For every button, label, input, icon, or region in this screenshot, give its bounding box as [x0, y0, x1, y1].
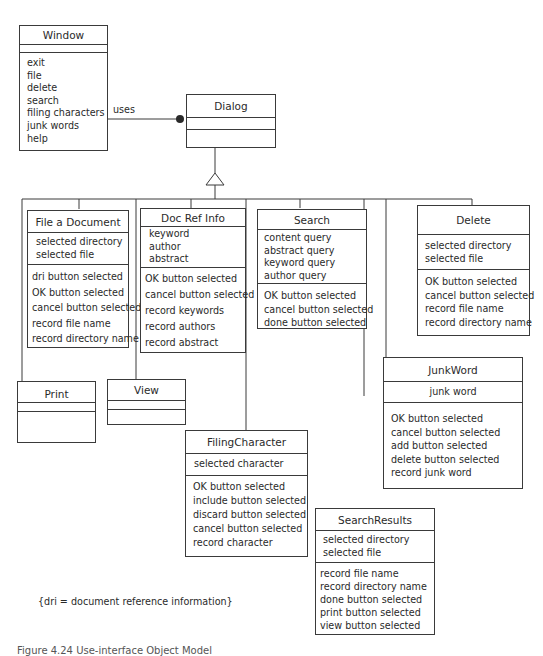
class-view: View	[107, 379, 186, 425]
attribute: keyword query	[264, 257, 366, 270]
attribute: selected file	[36, 249, 128, 262]
operation: record directory name	[425, 316, 529, 330]
class-attributes: junk word	[384, 382, 522, 403]
operation: record file name	[425, 302, 529, 316]
operation: OK button selected	[425, 275, 529, 289]
class-attributes: content query abstract query keyword que…	[258, 230, 366, 284]
operation: cancel button selected	[145, 287, 245, 303]
class-name: Delete	[418, 206, 529, 235]
class-window: Window exit file delete search filing ch…	[19, 25, 108, 151]
operation: OK button selected	[145, 271, 245, 287]
class-search-results: SearchResults selected directory selecte…	[315, 508, 435, 635]
class-name: Search	[258, 210, 366, 230]
attribute: author	[149, 241, 245, 254]
class-operations: record file name record directory name d…	[316, 563, 434, 632]
class-doc-ref-info: Doc Ref Info keyword author abstract OK …	[140, 208, 246, 353]
operation: exit	[27, 57, 107, 70]
operation: OK button selected	[264, 289, 366, 303]
operation: cancel button selected	[391, 426, 522, 440]
class-attributes	[187, 118, 275, 130]
class-file-a-document: File a Document selected directory selec…	[27, 210, 129, 348]
class-attributes	[108, 401, 185, 410]
attribute: selected directory	[36, 236, 128, 249]
attribute: selected character	[194, 458, 307, 471]
class-operations: exit file delete search filing character…	[20, 53, 107, 145]
operation: done button selected	[320, 593, 434, 606]
operation: cancel button selected	[425, 289, 529, 303]
operation: record character	[193, 536, 307, 550]
operation: delete button selected	[391, 453, 522, 467]
operation: delete	[27, 82, 107, 95]
class-operations: OK button selected cancel button selecte…	[384, 403, 522, 480]
operation: record abstract	[145, 335, 245, 351]
class-print: Print	[17, 381, 96, 443]
attribute: selected directory	[323, 534, 434, 547]
operation: record file name	[32, 316, 128, 332]
class-attributes	[18, 403, 95, 412]
operation: search	[27, 95, 107, 108]
operation: record keywords	[145, 303, 245, 319]
class-attributes	[20, 45, 107, 53]
operation: add button selected	[391, 439, 522, 453]
class-attributes: selected directory selected file	[28, 233, 128, 265]
operation: record directory name	[32, 331, 128, 347]
operation: discard button selected	[193, 508, 307, 522]
operation: cancel button selected	[32, 300, 128, 316]
attribute: keyword	[149, 228, 245, 241]
class-delete: Delete selected directory selected file …	[417, 205, 530, 336]
class-name: FilingCharacter	[186, 431, 307, 454]
class-operations: OK button selected cancel button selecte…	[418, 270, 529, 329]
attribute: content query	[264, 232, 366, 245]
class-attributes: keyword author abstract	[141, 227, 245, 268]
class-name: View	[108, 380, 185, 401]
class-name: JunkWord	[384, 358, 522, 382]
attribute: selected file	[425, 253, 529, 266]
operation: OK button selected	[391, 412, 522, 426]
operation: cancel button selected	[264, 303, 366, 317]
class-name: Dialog	[187, 95, 275, 118]
abbreviation-note: {dri = document reference information}	[38, 596, 233, 607]
class-junk-word: JunkWord junk word OK button selected ca…	[383, 357, 523, 489]
class-operations: OK button selected cancel button selecte…	[141, 268, 245, 351]
attribute: junk word	[384, 382, 522, 402]
class-attributes: selected directory selected file	[316, 531, 434, 563]
class-name: Doc Ref Info	[141, 209, 245, 227]
class-operations: OK button selected cancel button selecte…	[258, 284, 366, 330]
operation: record junk word	[391, 466, 522, 480]
operation: cancel button selected	[193, 522, 307, 536]
class-name: File a Document	[28, 211, 128, 233]
class-attributes: selected character	[186, 454, 307, 476]
operation: print button selected	[320, 606, 434, 619]
operation: junk words	[27, 120, 107, 133]
operation: OK button selected	[193, 480, 307, 494]
class-search: Search content query abstract query keyw…	[257, 209, 367, 329]
operation: file	[27, 70, 107, 83]
operation: include button selected	[193, 494, 307, 508]
figure-caption: Figure 4.24 Use-interface Object Model	[17, 645, 212, 656]
association-label: uses	[113, 104, 135, 115]
operation: filing characters	[27, 107, 107, 120]
attribute: selected directory	[425, 240, 529, 253]
operation: OK button selected	[32, 285, 128, 301]
attribute: selected file	[323, 547, 434, 560]
class-operations: dri button selected OK button selected c…	[28, 265, 128, 347]
operation: record directory name	[320, 580, 434, 593]
class-filing-character: FilingCharacter selected character OK bu…	[185, 430, 308, 557]
class-name: Print	[18, 382, 95, 403]
operation: view button selected	[320, 619, 434, 632]
attribute: abstract query	[264, 245, 366, 258]
class-operations: OK button selected include button select…	[186, 476, 307, 550]
attribute: author query	[264, 270, 366, 283]
operation: record file name	[320, 567, 434, 580]
class-name: SearchResults	[316, 509, 434, 531]
class-attributes: selected directory selected file	[418, 235, 529, 270]
attribute: abstract	[149, 253, 245, 266]
operation: record authors	[145, 319, 245, 335]
operation: done button selected	[264, 316, 366, 330]
class-dialog: Dialog	[186, 94, 276, 148]
operation: dri button selected	[32, 269, 128, 285]
operation: help	[27, 133, 107, 146]
class-name: Window	[20, 26, 107, 45]
